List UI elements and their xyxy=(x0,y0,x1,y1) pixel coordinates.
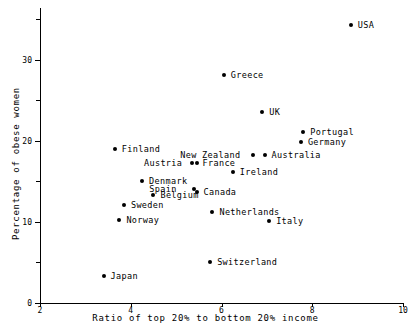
data-point[interactable] xyxy=(140,179,144,183)
data-point-label: Finland xyxy=(122,145,160,154)
data-point[interactable] xyxy=(102,274,106,278)
data-point-label: Switzerland xyxy=(217,258,277,267)
y-tick xyxy=(35,141,40,142)
data-point-label: UK xyxy=(269,108,280,117)
y-tick-minor xyxy=(36,19,40,20)
y-tick xyxy=(35,222,40,223)
y-tick-label: 30 xyxy=(14,56,32,65)
y-tick-minor xyxy=(36,262,40,263)
y-axis-line xyxy=(40,8,41,303)
data-point-label: Netherlands xyxy=(219,208,279,217)
data-point[interactable] xyxy=(117,218,121,222)
data-point-label: Canada xyxy=(204,188,237,197)
data-point[interactable] xyxy=(260,110,264,114)
data-point[interactable] xyxy=(299,140,303,144)
data-point[interactable] xyxy=(251,153,255,157)
data-point[interactable] xyxy=(263,153,267,157)
data-point-label: Japan xyxy=(111,272,138,281)
data-point-label: USA xyxy=(358,21,374,30)
data-point[interactable] xyxy=(113,147,117,151)
data-point-label: Belgium xyxy=(160,191,198,200)
y-tick-minor xyxy=(36,100,40,101)
x-axis-label: Ratio of top 20% to bottom 20% income xyxy=(0,313,411,323)
y-tick xyxy=(35,60,40,61)
y-tick-label: 0 xyxy=(14,299,32,308)
data-point[interactable] xyxy=(195,161,199,165)
data-point[interactable] xyxy=(151,193,155,197)
data-point[interactable] xyxy=(222,73,226,77)
data-point[interactable] xyxy=(208,260,212,264)
y-axis-label: Percentage of obese women xyxy=(11,87,21,240)
data-point[interactable] xyxy=(231,170,235,174)
data-point[interactable] xyxy=(267,219,271,223)
data-point[interactable] xyxy=(210,210,214,214)
scatter-plot: 2468100102030 USAGreeceUKPortugalGermany… xyxy=(0,0,411,333)
y-tick xyxy=(35,303,40,304)
data-point-label: France xyxy=(203,159,236,168)
data-point-label: Ireland xyxy=(240,168,278,177)
data-point-label: Italy xyxy=(276,217,303,226)
data-point-label: Norway xyxy=(126,216,159,225)
data-point-label: Sweden xyxy=(131,201,164,210)
data-point[interactable] xyxy=(122,203,126,207)
data-point[interactable] xyxy=(349,23,353,27)
data-point[interactable] xyxy=(190,161,194,165)
data-point[interactable] xyxy=(301,130,305,134)
y-tick-minor xyxy=(36,181,40,182)
data-point-label: Australia xyxy=(272,151,321,160)
data-point-label: Greece xyxy=(231,71,264,80)
data-point-label: Germany xyxy=(308,138,346,147)
data-point-label: Portugal xyxy=(310,128,354,137)
data-point-label: Austria xyxy=(144,159,182,168)
